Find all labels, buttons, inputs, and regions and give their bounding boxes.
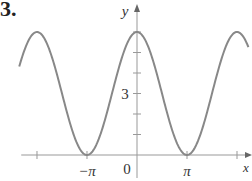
x-tick-label-zero: 0 <box>123 161 131 177</box>
cosine-graph: −π0π3yx <box>0 0 252 181</box>
y-axis-arrow-icon <box>134 4 140 12</box>
x-tick-label-neg-pi: −π <box>78 163 96 179</box>
x-tick-label-pi: π <box>183 163 191 179</box>
axes <box>21 4 252 178</box>
axis-labels: −π0π3yx <box>78 3 249 179</box>
y-axis-label: y <box>120 3 129 19</box>
x-axis-label: x <box>242 160 249 175</box>
x-axis-arrow-icon <box>245 152 252 158</box>
y-tick-label-3: 3 <box>121 86 129 102</box>
